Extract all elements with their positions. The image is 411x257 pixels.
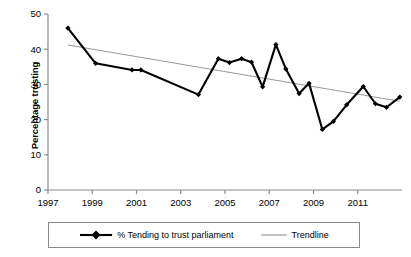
legend-line-icon [260,229,288,241]
legend-line-marker-icon [79,229,113,241]
legend-item-trendline: Trendline [260,229,329,241]
y-tick-label: 0 [36,184,41,195]
x-axis-ticks: 19971999200120032005200720092011 [37,190,368,208]
x-tick-label: 2009 [303,197,324,208]
x-tick-label: 1999 [82,197,103,208]
data-point-marker [129,67,134,72]
trust-series-line [68,28,400,129]
plot-area: Percentage trusting 01020304050 19971999… [0,0,411,213]
chart-container: Percentage trusting 01020304050 19971999… [0,0,411,257]
data-point-marker [227,60,232,65]
y-axis-title: Percentage trusting [29,26,40,186]
legend-item-series: % Tending to trust parliament [79,229,233,241]
y-tick-label: 50 [30,8,41,19]
x-tick-label: 2007 [259,197,280,208]
legend-label-trendline: Trendline [292,230,329,240]
chart-svg: 01020304050 1997199920012003200520072009… [0,0,411,213]
data-point-marker [239,56,244,61]
trendline-series [68,45,400,101]
x-tick-label: 2001 [126,197,147,208]
legend-label-series: % Tending to trust parliament [117,230,233,240]
trust-series-markers [65,25,402,132]
x-tick-label: 2005 [214,197,235,208]
chart-legend: % Tending to trust parliament Trendline [48,222,360,248]
x-tick-label: 1997 [37,197,58,208]
x-tick-label: 2003 [170,197,191,208]
x-tick-label: 2011 [348,197,368,208]
